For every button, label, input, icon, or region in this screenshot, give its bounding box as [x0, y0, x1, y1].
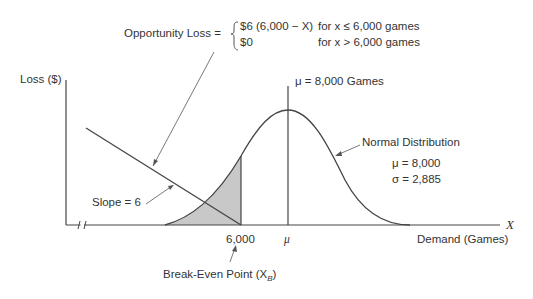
- x-axis-symbol: X: [506, 217, 514, 233]
- slope-arrow: [146, 186, 172, 204]
- slope-label: Slope = 6: [92, 196, 141, 208]
- normal-dist-label: Normal Distribution: [362, 136, 460, 148]
- formula-case2-expr: $0: [240, 36, 253, 48]
- tick-6000: 6,000: [226, 233, 255, 245]
- formula-case1-cond: for x ≤ 6,000 games: [318, 20, 420, 32]
- shaded-loss-region: [165, 156, 241, 225]
- diagram-canvas: [0, 0, 533, 299]
- break-even-label: Break-Even Point (XB): [163, 268, 276, 283]
- formula-case2-cond: for x > 6,000 games: [318, 36, 420, 48]
- opportunity-loss-line: [86, 128, 241, 225]
- y-axis-label: Loss ($): [20, 73, 62, 85]
- formula-label: Opportunity Loss =: [124, 27, 221, 39]
- x-axis-label: Demand (Games): [417, 233, 508, 245]
- mu-value: μ = 8,000: [392, 157, 441, 169]
- mean-annotation: μ = 8,000 Games: [295, 75, 384, 87]
- formula-brace: [231, 22, 238, 50]
- formula-arrow: [153, 52, 214, 166]
- sigma-value: σ = 2,885: [392, 173, 441, 185]
- tick-mu: μ: [284, 233, 290, 245]
- formula-case1-expr: $6 (6,000 − X): [240, 20, 313, 32]
